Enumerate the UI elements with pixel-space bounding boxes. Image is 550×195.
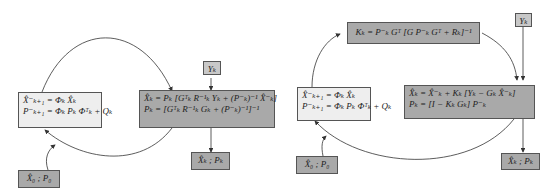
left-update-cov-eq: Pₖ = [Gᵀₖ R⁻¹ₖ Gₖ + (P⁻ₖ)⁻¹]⁻¹ <box>144 104 270 115</box>
arrow-update-to-predict <box>45 128 172 156</box>
right-gain-box: Kₖ = P⁻ₖ Gᵀ [G P⁻ₖ Gᵀ + Rₖ]⁻¹ <box>347 22 480 44</box>
arrow-predict-to-gain <box>312 34 340 87</box>
left-measurement-box: Yₖ <box>203 61 221 75</box>
arrow-init-to-predict <box>46 145 55 170</box>
right-update-cov-eq: Pₖ = [I − Kₖ Gₖ] P⁻ₖ <box>409 99 530 110</box>
right-predict-cov-eq: P⁻ₖ₊₁ = Φₖ Pₖ Φᵀₖ + Qₖ <box>302 101 366 112</box>
left-output-box: X̂ₖ ; Pₖ <box>191 152 230 170</box>
arrow-predict-to-update <box>42 38 172 92</box>
right-update-box: X̂ₖ = X̂⁻ₖ + Kₖ [Yₖ − Gₖ X̂⁻ₖ] Pₖ = [I −… <box>404 85 535 119</box>
left-update-state-eq: X̂ₖ = Pₖ [Gᵀₖ R⁻¹ₖ Yₖ + (P⁻ₖ)⁻¹ X̂⁻ₖ] <box>144 93 270 104</box>
arrow-init-to-predict <box>322 136 326 156</box>
right-init-box: X̂₀ ; P₀ <box>296 156 338 174</box>
arrow-gain-to-update <box>482 33 517 80</box>
left-init-label: X̂₀ ; P₀ <box>27 173 52 183</box>
left-update-box: X̂ₖ = Pₖ [Gᵀₖ R⁻¹ₖ Yₖ + (P⁻ₖ)⁻¹ X̂⁻ₖ] Pₖ… <box>139 90 275 128</box>
right-predict-state-eq: X̂⁻ₖ₊₁ = Φₖ X̂ₖ <box>302 90 366 101</box>
right-measurement-label: Yₖ <box>519 16 527 26</box>
left-predict-state-eq: X̂⁻ₖ₊₁ = Φₖ X̂ₖ <box>23 95 97 106</box>
left-measurement-label: Yₖ <box>208 64 216 74</box>
right-output-box: X̂ₖ ; Pₖ <box>501 153 540 170</box>
right-predict-box: X̂⁻ₖ₊₁ = Φₖ X̂ₖ P⁻ₖ₊₁ = Φₖ Pₖ Φᵀₖ + Qₖ <box>297 87 371 121</box>
right-measurement-box: Yₖ <box>515 13 532 27</box>
left-init-box: X̂₀ ; P₀ <box>18 170 60 188</box>
right-init-label: X̂₀ ; P₀ <box>305 159 330 169</box>
left-output-label: X̂ₖ ; Pₖ <box>198 155 223 165</box>
right-output-label: X̂ₖ ; Pₖ <box>508 156 533 166</box>
left-predict-cov-eq: P⁻ₖ₊₁ = Φₖ Pₖ Φᵀₖ + Qₖ <box>23 106 97 117</box>
right-gain-eq: Kₖ = P⁻ₖ Gᵀ [G P⁻ₖ Gᵀ + Rₖ]⁻¹ <box>352 27 475 38</box>
left-predict-box: X̂⁻ₖ₊₁ = Φₖ X̂ₖ P⁻ₖ₊₁ = Φₖ Pₖ Φᵀₖ + Qₖ <box>18 92 102 128</box>
right-update-state-eq: X̂ₖ = X̂⁻ₖ + Kₖ [Yₖ − Gₖ X̂⁻ₖ] <box>409 88 530 99</box>
arrow-update-to-predict <box>315 119 514 159</box>
